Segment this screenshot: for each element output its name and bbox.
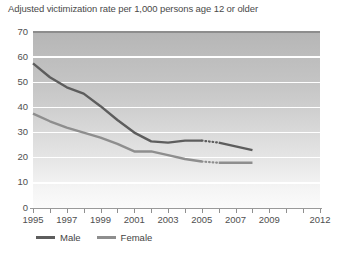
y-axis-tick-label: 60	[4, 51, 28, 62]
x-axis-tick	[252, 209, 253, 213]
x-axis-tick	[303, 209, 304, 213]
x-axis-tick	[185, 209, 186, 213]
series-line	[33, 63, 202, 142]
legend-label: Male	[60, 232, 81, 243]
x-axis-tick	[50, 209, 51, 213]
x-axis-tick-label: 1997	[56, 214, 77, 225]
legend-label: Female	[121, 232, 153, 243]
line-chart: Adjusted victimization rate per 1,000 pe…	[0, 0, 353, 253]
x-axis-tick	[101, 209, 102, 213]
x-axis-tick	[286, 209, 287, 213]
series-line	[219, 143, 253, 151]
y-axis-tick-label: 0	[4, 202, 28, 213]
x-axis-tick-label: 2003	[157, 214, 178, 225]
x-axis-tick	[33, 209, 34, 213]
x-axis-tick	[84, 209, 85, 213]
x-axis-tick	[236, 209, 237, 213]
legend-item-female[interactable]: Female	[97, 232, 153, 243]
series-line-dotted-segment	[202, 161, 219, 162]
y-axis-tick-label: 50	[4, 76, 28, 87]
x-axis-tick	[134, 209, 135, 213]
legend-item-male[interactable]: Male	[36, 232, 81, 243]
y-axis-tick-label: 70	[4, 26, 28, 37]
y-axis-tick-label: 10	[4, 176, 28, 187]
x-axis-tick	[168, 209, 169, 213]
x-axis-tick	[320, 209, 321, 213]
x-axis-tick-label: 2005	[191, 214, 212, 225]
x-axis-line	[30, 208, 322, 209]
series-line-dotted-segment	[202, 141, 219, 143]
x-axis-tick-label: 2009	[259, 214, 280, 225]
x-axis-tick	[67, 209, 68, 213]
x-axis-tick	[202, 209, 203, 213]
plot-area	[33, 32, 320, 208]
y-axis-tick-label: 40	[4, 101, 28, 112]
chart-title: Adjusted victimization rate per 1,000 pe…	[8, 3, 258, 14]
x-axis-tick	[151, 209, 152, 213]
x-axis-tick	[269, 209, 270, 213]
series-lines	[33, 32, 320, 208]
x-axis-tick-label: 1999	[90, 214, 111, 225]
legend-color-swatch	[36, 236, 55, 239]
x-axis-tick-label: 1995	[22, 214, 43, 225]
x-axis-tick	[219, 209, 220, 213]
plot-top-border	[33, 31, 320, 33]
y-axis-tick-label: 20	[4, 151, 28, 162]
chart-legend: MaleFemale	[36, 232, 152, 243]
x-axis-tick	[117, 209, 118, 213]
legend-color-swatch	[97, 236, 116, 239]
y-axis-tick-label: 30	[4, 126, 28, 137]
x-axis-tick-label: 2001	[124, 214, 145, 225]
x-axis-tick-label: 2007	[225, 214, 246, 225]
x-axis-tick-label: 2012	[309, 214, 330, 225]
